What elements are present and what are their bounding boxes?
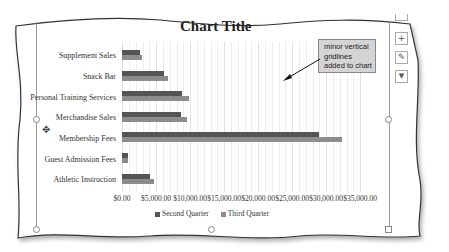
minor-gridline [217,42,218,192]
resize-handle-bottom-left[interactable] [33,226,40,233]
minor-gridline [231,42,232,192]
minor-gridline [238,42,239,192]
category-label: Merchandise Sales [56,113,116,122]
gridline [258,42,259,192]
bar-q3-supplement-sales[interactable] [122,55,142,60]
category-label: Membership Fees [59,134,116,143]
bar-q3-athletic-instruction[interactable] [122,179,154,184]
gridline [190,42,191,192]
x-tick-label: $0.00 [114,194,131,203]
bar-q3-merchandise-sales[interactable] [122,117,187,122]
minor-gridline [272,42,273,192]
chart-title[interactable]: Chart Title [180,18,252,35]
category-label: Athletic Instruction [54,175,116,184]
resize-handle-bottom[interactable] [208,226,215,233]
category-label: Personal Training Services [30,93,116,102]
legend-item-third-quarter[interactable]: Third Quarter [221,209,269,218]
bar-q3-snack-bar[interactable] [122,76,168,81]
x-tick-label: $15,000.00 [207,194,241,203]
callout-line: minor vertical [324,42,375,52]
bar-q3-membership-fees[interactable] [122,137,342,142]
bar-q3-personal-training[interactable] [122,96,189,101]
x-tick-label: $10,000.00 [173,194,207,203]
resize-handle-bottom-right[interactable] [385,226,392,233]
chart-styles-button[interactable]: ✎ [395,51,408,64]
callout-line: gridlines [324,52,375,62]
chart-layout-button[interactable] [395,14,408,21]
x-tick-label: $25,000.00 [275,194,309,203]
legend-swatch [221,212,226,217]
x-tick-label: $5,000.00 [141,194,171,203]
legend-label: Second Quarter [162,209,209,218]
minor-gridline [197,42,198,192]
minor-gridline [245,42,246,192]
resize-handle-right[interactable] [385,116,392,123]
minor-gridline [211,42,212,192]
minor-gridline [204,42,205,192]
x-tick-label: $20,000.00 [241,194,275,203]
resize-handle-left[interactable] [33,116,40,123]
category-label: Guest Admission Fees [44,155,116,164]
callout-line: added to chart [324,61,375,71]
chart-elements-button[interactable]: + [395,32,408,45]
minor-gridline [251,42,252,192]
gridline [224,42,225,192]
annotation-callout: minor vertical gridlines added to chart [318,39,376,73]
x-tick-label: $35,000.00 [343,194,377,203]
chart-styles-icon: ✎ [398,52,406,62]
chart-elements-icon: + [398,33,406,43]
x-tick-label: $30,000.00 [309,194,343,203]
category-label: Supplement Sales [59,51,116,60]
callout-arrow-icon [280,55,325,85]
chart-filters-button[interactable]: ▼ [395,70,408,83]
legend-swatch [155,212,160,217]
category-label: Snack Bar [83,72,116,81]
chart-legend[interactable]: Second Quarter Third Quarter [155,209,279,218]
legend-item-second-quarter[interactable]: Second Quarter [155,209,209,218]
legend-label: Third Quarter [228,209,269,218]
move-cursor-icon: ✥ [42,124,50,135]
chart-filters-icon: ▼ [399,72,404,80]
bar-q3-guest-admission[interactable] [122,158,128,163]
minor-gridline [265,42,266,192]
